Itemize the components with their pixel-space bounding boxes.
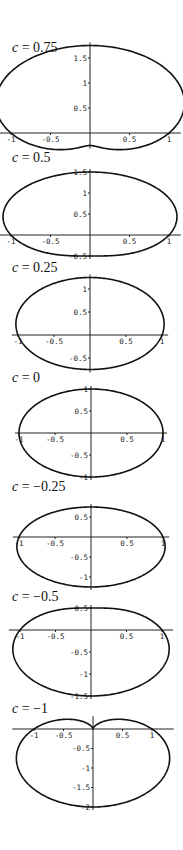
y-tick-label: -1.5 bbox=[72, 783, 90, 792]
y-tick-label: -1 bbox=[81, 764, 90, 773]
x-tick-label: 1 bbox=[150, 731, 155, 740]
y-tick-label: -0.5 bbox=[72, 744, 90, 753]
x-tick-label: -1 bbox=[29, 731, 38, 740]
polar-curve-plot: -1-0.50.51-2-1.5-1-0.5 bbox=[0, 0, 183, 850]
x-tick-label: 0.5 bbox=[116, 731, 130, 740]
x-tick-label: -0.5 bbox=[54, 731, 72, 740]
